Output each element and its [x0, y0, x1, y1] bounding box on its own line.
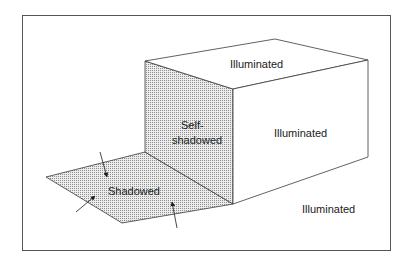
label-ground: Illuminated: [302, 203, 355, 215]
label-top-face: Illuminated: [230, 58, 283, 70]
diagram-canvas: Illuminated Illuminated Illuminated Self…: [0, 0, 411, 266]
label-right-face: Illuminated: [274, 127, 327, 139]
label-front-face-line1: Self-: [181, 119, 204, 131]
label-cast-shadow: Shadowed: [108, 185, 160, 197]
label-front-face-line2: shadowed: [172, 134, 222, 146]
